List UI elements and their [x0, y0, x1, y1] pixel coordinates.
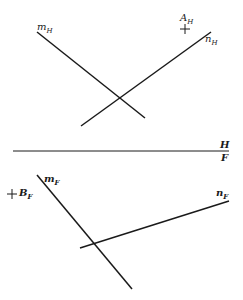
- label-a-top-view: AH: [179, 12, 194, 26]
- label-h-plane: H: [219, 139, 230, 150]
- point-b-front-view-cross-icon: [7, 189, 17, 199]
- line-m-front-view: [37, 175, 132, 289]
- diagram-svg: mH AH nH H F mF BF nF: [0, 0, 243, 300]
- line-n-top-view: [81, 32, 211, 126]
- label-f-plane: F: [220, 152, 229, 163]
- line-n-front-view: [80, 201, 229, 248]
- line-m-top-view: [37, 32, 145, 118]
- label-n-top-view: nH: [205, 33, 218, 47]
- label-n-front-view: nF: [216, 187, 229, 201]
- label-m-front-view: mF: [44, 173, 61, 187]
- descriptive-geometry-diagram: mH AH nH H F mF BF nF: [0, 0, 243, 300]
- label-m-top-view: mH: [37, 21, 53, 35]
- label-b-front-view: BF: [18, 187, 33, 201]
